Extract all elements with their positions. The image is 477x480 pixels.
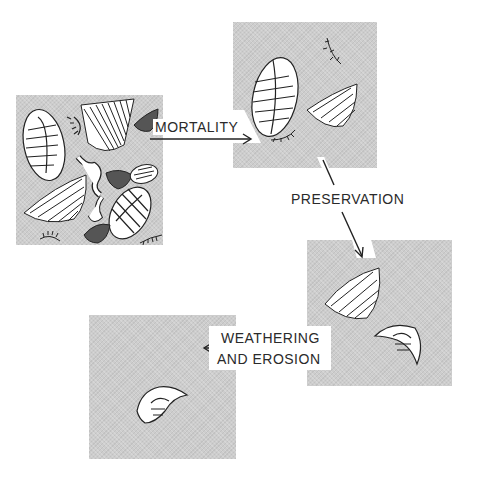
brachiopod-icon bbox=[81, 99, 134, 151]
living-community-illustration bbox=[16, 95, 163, 245]
trilobite-fragment-icon bbox=[137, 387, 187, 423]
worm-icon bbox=[67, 117, 80, 135]
brachiopod-icon bbox=[307, 84, 357, 127]
panel-living-community bbox=[16, 95, 163, 245]
worm-small-icon bbox=[40, 231, 60, 241]
death-assemblage-illustration bbox=[233, 22, 377, 168]
trilobite-fragment-icon bbox=[375, 325, 421, 364]
weathering-label-line1: WEATHERING bbox=[221, 331, 320, 345]
trilobite-icon bbox=[17, 106, 71, 185]
preservation-label: PRESERVATION bbox=[291, 192, 404, 206]
brachiopod-small-icon bbox=[84, 224, 110, 243]
weathering-label-line2: AND EROSION bbox=[217, 352, 321, 366]
trilobite-small-icon bbox=[128, 162, 160, 187]
mortality-label: MORTALITY bbox=[153, 119, 240, 135]
worm-icon bbox=[90, 197, 102, 220]
trilobite-icon bbox=[245, 53, 305, 140]
trilobite-icon bbox=[100, 180, 159, 246]
panel-death-assemblage bbox=[233, 22, 377, 168]
brachiopod-small-icon bbox=[106, 170, 132, 189]
worm-icon bbox=[323, 38, 341, 64]
worm-small-icon bbox=[140, 235, 162, 245]
brachiopod-icon bbox=[24, 175, 86, 222]
brachiopod-icon bbox=[325, 268, 380, 319]
weathering-label-box: WEATHERING AND EROSION bbox=[209, 326, 331, 370]
